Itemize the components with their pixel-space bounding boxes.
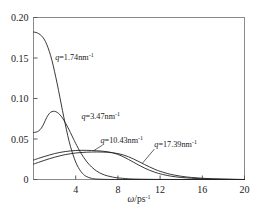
series-label-0: q=1.74nm-1 (55, 52, 94, 62)
y-tick-label-0.15: 0.15 (11, 53, 29, 64)
series-label-3: q=17.39nm-1 (154, 139, 197, 149)
x-tick-label-8: 8 (115, 184, 120, 195)
x-tick-label-20: 20 (240, 184, 250, 195)
x-tick-label-16: 16 (197, 184, 207, 195)
chart-container: 48121620 00.050.100.150.20 q=1.74nm-1q=3… (0, 0, 263, 223)
y-tick-label-0.20: 0.20 (11, 12, 29, 23)
series-label-1: q=3.47nm-1 (82, 111, 121, 121)
spectral-line-chart: 48121620 00.050.100.150.20 q=1.74nm-1q=3… (0, 0, 263, 223)
chart-background (0, 0, 263, 223)
x-tick-label-4: 4 (73, 184, 78, 195)
y-tick-label-0: 0 (24, 174, 29, 185)
y-tick-label-0.05: 0.05 (11, 134, 29, 145)
y-tick-label-0.10: 0.10 (11, 93, 29, 104)
series-label-2: q=10.43nm-1 (100, 135, 143, 145)
x-tick-label-12: 12 (155, 184, 165, 195)
